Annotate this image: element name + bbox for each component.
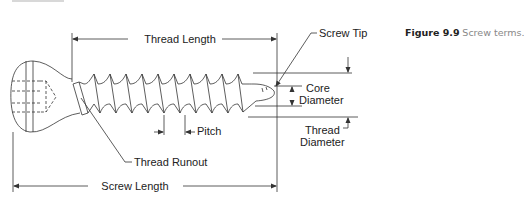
figure-caption: Figure 9.9 Screw terms. — [405, 27, 524, 38]
core-diameter-label-line1: Core — [306, 82, 330, 94]
bottom-thread-profile — [88, 101, 256, 113]
pitch-label: Pitch — [197, 125, 221, 137]
top-thread-profile — [79, 74, 254, 84]
core-diameter-label-line2: Diameter — [299, 94, 344, 106]
thread-length-label: Thread Length — [144, 33, 216, 45]
screw-head-outline — [11, 61, 80, 132]
thread-diameter-label-line1: Thread — [305, 124, 340, 136]
screw-tip-outline — [254, 84, 274, 101]
thread-runout-label: Thread Runout — [134, 156, 207, 168]
figure-caption-text: Screw terms. — [462, 27, 524, 38]
screw-length-label: Screw Length — [101, 180, 168, 192]
figure-number: Figure 9.9 — [405, 27, 460, 38]
screw-tip-label: Screw Tip — [319, 27, 367, 39]
thread-diameter-label-line2: Diameter — [300, 136, 345, 148]
